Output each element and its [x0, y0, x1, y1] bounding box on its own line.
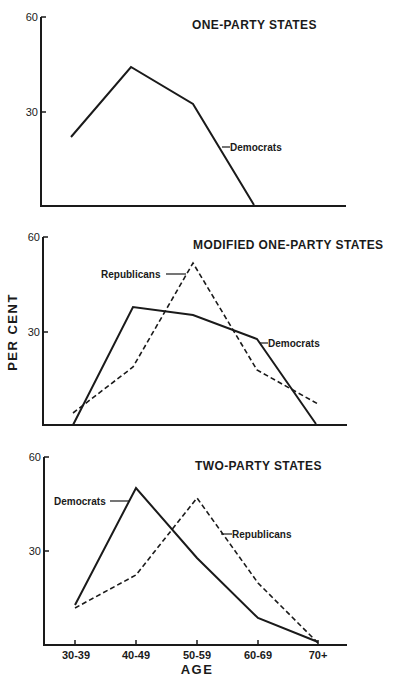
y-tick-label-30: 30 [26, 106, 38, 118]
x-tick-label: 30-39 [62, 649, 90, 661]
democrats-line [75, 488, 318, 642]
age-distribution-figure: ONE-PARTY STATES 60 30 Democrats MODIFIE… [0, 0, 406, 678]
panel-modified-one-party-states: MODIFIED ONE-PARTY STATES 60 30 PER CENT… [5, 231, 383, 425]
republicans-line [75, 498, 318, 643]
chart-canvas: ONE-PARTY STATES 60 30 Democrats MODIFIE… [0, 0, 406, 678]
y-tick-label-60: 60 [26, 11, 38, 23]
y-tick-label-30: 30 [28, 326, 40, 338]
y-tick-label-60: 60 [29, 451, 41, 463]
democrats-line [73, 307, 316, 425]
republicans-label: Republicans [101, 269, 161, 280]
democrats-label: Democrats [230, 142, 282, 153]
panel-title: MODIFIED ONE-PARTY STATES [193, 238, 383, 252]
x-tick-label: 60-69 [244, 649, 272, 661]
panel-title: ONE-PARTY STATES [192, 18, 317, 32]
y-tick-label-30: 30 [29, 545, 41, 557]
panel-title: TWO-PARTY STATES [195, 459, 322, 473]
x-tick-label: 70+ [309, 649, 328, 661]
panel-one-party-states: ONE-PARTY STATES 60 30 Democrats [26, 11, 346, 206]
democrats-line [71, 67, 254, 205]
y-axis-title: PER CENT [5, 293, 20, 371]
y-tick-label-60: 60 [28, 231, 40, 243]
republicans-label: Republicans [232, 529, 292, 540]
x-tick-label: 40-49 [122, 649, 150, 661]
democrats-label: Democrats [268, 338, 320, 349]
x-tick-label: 50-59 [183, 649, 211, 661]
democrats-label: Democrats [54, 496, 106, 507]
x-axis-title: AGE [181, 662, 214, 677]
panel-two-party-states: TWO-PARTY STATES 60 30 30-39 40-49 50-59… [29, 451, 347, 677]
